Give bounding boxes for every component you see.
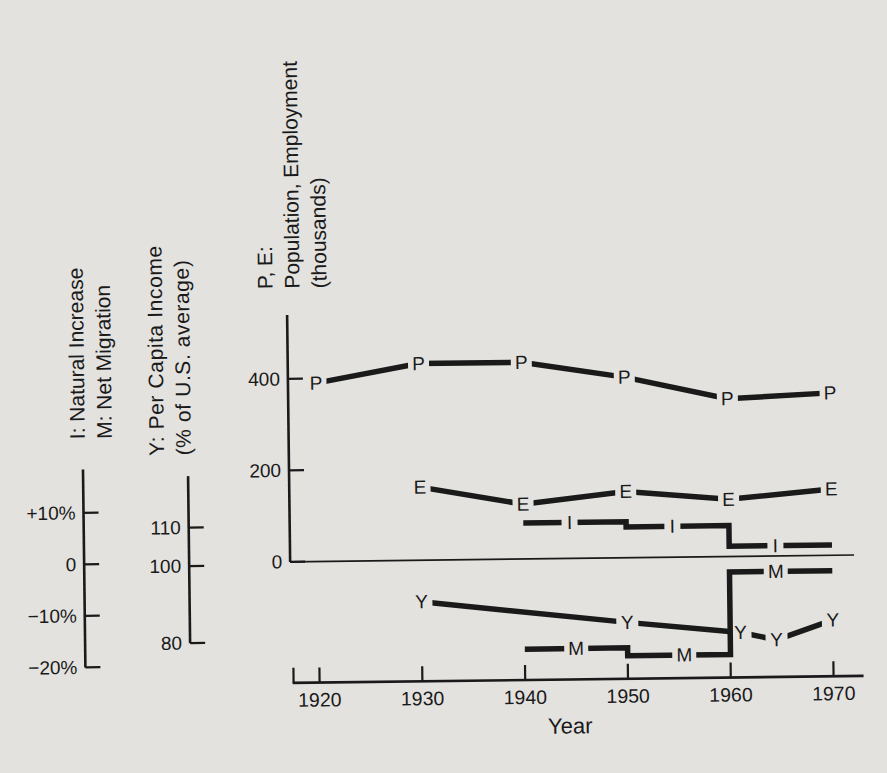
x-tick-label: 1940 xyxy=(504,686,548,709)
im-scale-tick-label: +10% xyxy=(26,503,75,525)
series-P-label: P xyxy=(515,352,528,373)
series-Y-label: Y xyxy=(826,609,839,630)
series-Y-label: Y xyxy=(734,622,747,643)
series-P-label: P xyxy=(309,373,322,394)
im-scale-tick-label: −20% xyxy=(28,657,77,679)
series-I-label: I xyxy=(567,512,573,533)
x-tick-label: 1930 xyxy=(401,687,445,710)
x-tick-label: 1960 xyxy=(709,683,753,706)
series-P-label: P xyxy=(618,367,631,388)
series-P-label: P xyxy=(412,353,425,374)
chart-canvas: I: Natural Increase M: Net Migration Y: … xyxy=(0,0,887,773)
im-scale-tick-label: −10% xyxy=(28,605,77,627)
im-scale: +10%0−10%−20% xyxy=(26,469,101,678)
series-Y-label: Y xyxy=(621,612,634,633)
series-Y-label: Y xyxy=(415,591,428,612)
x-tick-label: 1950 xyxy=(606,685,650,708)
x-axis-title: Year xyxy=(548,713,593,739)
series-P-line xyxy=(316,359,830,404)
pe-axis-tick-label: 0 xyxy=(271,551,282,572)
series-M: MMM xyxy=(524,560,834,667)
series-E-label: E xyxy=(414,477,427,498)
series-I-label: I xyxy=(773,535,779,556)
series-E: EEEEE xyxy=(409,471,842,516)
x-tick-label: 1920 xyxy=(298,688,342,711)
scanned-figure-page: I: Natural Increase M: Net Migration Y: … xyxy=(0,0,887,773)
series-E-label: E xyxy=(619,481,632,502)
series-Y-label: Y xyxy=(770,629,783,650)
income-scale-tick-label: 110 xyxy=(150,517,181,538)
income-scale-tick-label: 80 xyxy=(161,633,182,654)
income-scale: 11010080 xyxy=(148,476,205,654)
im-scale-line xyxy=(83,469,85,667)
series-M-label: M xyxy=(676,644,692,665)
series-P: PPPPPP xyxy=(305,348,841,414)
income-scale-line xyxy=(188,476,190,643)
series-E-label: E xyxy=(517,494,530,515)
x-axis: 192019301940195019601970Year xyxy=(292,661,864,742)
x-axis-line xyxy=(293,676,864,683)
income-scale-tick-label: 100 xyxy=(149,556,181,577)
series-E-label: E xyxy=(825,478,838,499)
pe-axis: 4002000 xyxy=(247,315,305,573)
series-I: III xyxy=(523,509,832,560)
figure-plot: +10%0−10%−20%110100804002000192019301940… xyxy=(0,0,887,773)
pe-axis-tick-label: 200 xyxy=(249,460,281,481)
series-M-label: M xyxy=(568,638,584,659)
im-scale-tick-label: 0 xyxy=(65,554,76,575)
series-I-label: I xyxy=(670,516,676,537)
series-M-label: M xyxy=(768,561,784,582)
series-P-label: P xyxy=(824,382,837,403)
series-E-label: E xyxy=(722,489,735,510)
pe-axis-line xyxy=(287,315,290,562)
series-Y: YYYYY xyxy=(410,586,844,655)
x-tick-label: 1970 xyxy=(812,682,856,705)
series-P-label: P xyxy=(721,388,734,409)
pe-axis-tick-label: 400 xyxy=(248,368,280,389)
